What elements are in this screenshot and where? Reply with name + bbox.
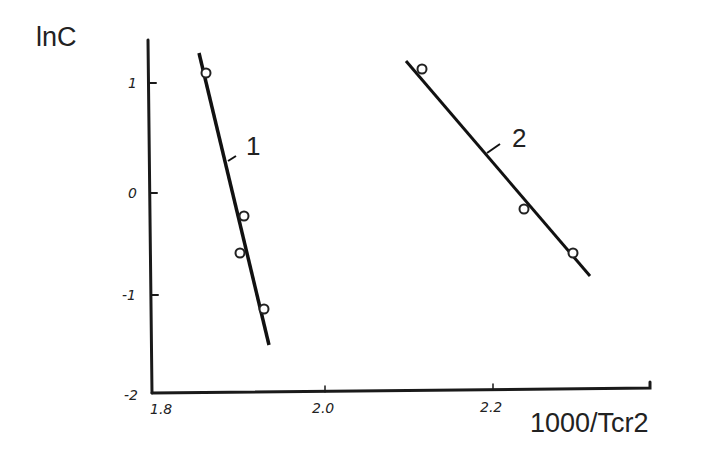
- x-tick-label: 2.2: [480, 399, 502, 415]
- series-label: 1: [246, 131, 260, 161]
- y-tick-label: 1: [128, 75, 137, 91]
- series-1: 1: [199, 53, 269, 345]
- x-tick-label: 1.8: [150, 401, 172, 417]
- series-label: 2: [512, 123, 526, 153]
- y-tick-label: -1: [122, 287, 136, 303]
- y-axis: [148, 40, 152, 393]
- x-axis: [152, 382, 650, 393]
- plot-area: 1 0 -1 -2 1.8 2.0 2.2 1 2: [0, 0, 723, 460]
- y-tick-label: -2: [124, 387, 138, 403]
- x-tick-label: 2.0: [312, 400, 334, 416]
- y-tick-label: 0: [128, 185, 137, 201]
- series-2: 2: [406, 61, 590, 276]
